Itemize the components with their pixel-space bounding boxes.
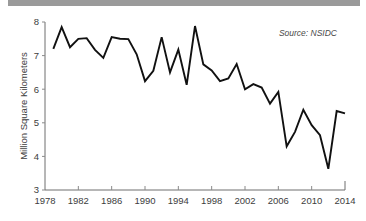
x-tick-label-1978: 1978 <box>34 195 55 206</box>
y-tick-label-6: 6 <box>34 84 39 95</box>
y-axis-title: Million Square Kilometers <box>18 52 29 160</box>
x-tick-label-2010: 2010 <box>301 195 322 206</box>
y-tick-label-3: 3 <box>34 184 39 195</box>
y-tick-label-4: 4 <box>34 151 39 162</box>
x-tick-label-1986: 1986 <box>101 195 122 206</box>
screenshot-root: 345678 197819821986199019941998200220062… <box>0 0 366 221</box>
plot-background <box>45 22 345 190</box>
x-tick-label-2002: 2002 <box>234 195 255 206</box>
sea-ice-line-chart: 345678 197819821986199019941998200220062… <box>0 6 366 221</box>
y-tick-label-8: 8 <box>34 16 39 27</box>
y-tick-label-5: 5 <box>34 117 39 128</box>
x-tick-label-1998: 1998 <box>201 195 222 206</box>
source-annotation: Source: NSIDC <box>279 28 338 38</box>
x-tick-label-1994: 1994 <box>168 195 189 206</box>
y-tick-label-7: 7 <box>34 50 39 61</box>
chart-container: 345678 197819821986199019941998200220062… <box>0 6 366 221</box>
x-axis-tick-labels: 1978198219861990199419982002200620102014 <box>34 195 355 206</box>
y-axis-tick-labels: 345678 <box>34 16 39 195</box>
x-tick-label-1982: 1982 <box>68 195 89 206</box>
x-tick-label-2014: 2014 <box>334 195 355 206</box>
x-tick-label-1990: 1990 <box>134 195 155 206</box>
x-tick-label-2006: 2006 <box>268 195 289 206</box>
